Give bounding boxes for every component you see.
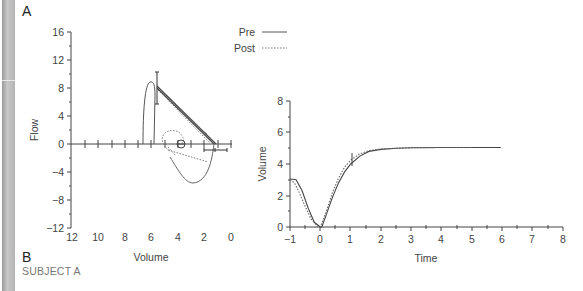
time-y-label: Volume <box>256 146 268 181</box>
time-x-tick-labels: −1 0 1 2 3 4 5 6 7 8 <box>284 233 566 245</box>
svg-text:2: 2 <box>277 190 283 202</box>
svg-text:8: 8 <box>277 95 283 107</box>
svg-text:7: 7 <box>529 233 535 245</box>
legend-pre-label: Pre <box>239 26 256 38</box>
horizontal-error-bar <box>204 148 227 152</box>
svg-text:0: 0 <box>58 138 64 150</box>
flow-y-ticks <box>67 32 71 228</box>
time-x-ticks <box>290 225 563 231</box>
figure-canvas: 16 12 8 4 0 −4 −8 −12 Flow 12 10 8 6 4 2 <box>0 0 583 291</box>
svg-text:−4: −4 <box>52 166 64 178</box>
flow-x-tick-labels: 12 10 8 6 4 2 0 <box>66 231 234 243</box>
pre-volume-time-curve <box>290 148 501 228</box>
svg-text:1: 1 <box>347 233 353 245</box>
svg-text:6: 6 <box>277 126 283 138</box>
pre-expiratory-peak <box>143 82 155 144</box>
svg-text:8: 8 <box>122 231 128 243</box>
volume-time-chart: 8 6 4 2 0 Volume −1 0 1 2 3 4 5 <box>256 95 566 264</box>
svg-text:2: 2 <box>378 233 384 245</box>
flow-x-label: Volume <box>133 251 168 263</box>
pre-descending-line-2 <box>157 86 216 144</box>
flow-y-tick-labels: 16 12 8 4 0 −4 −8 −12 <box>46 26 64 234</box>
svg-text:0: 0 <box>277 221 283 233</box>
post-inspiratory-line <box>168 150 208 162</box>
svg-text:12: 12 <box>52 54 64 66</box>
svg-text:5: 5 <box>469 233 475 245</box>
svg-text:−12: −12 <box>46 222 64 234</box>
flow-volume-chart: 16 12 8 4 0 −4 −8 −12 Flow 12 10 8 6 4 2 <box>28 26 234 263</box>
post-volume-time-curve <box>290 148 472 228</box>
time-x-label: Time <box>415 252 438 264</box>
svg-text:−1: −1 <box>284 233 296 245</box>
post-connector <box>168 147 176 156</box>
pre-descending-line <box>157 88 214 144</box>
svg-text:4: 4 <box>438 233 444 245</box>
time-y-tick-labels: 8 6 4 2 0 <box>277 95 283 233</box>
svg-text:12: 12 <box>66 231 78 243</box>
svg-text:10: 10 <box>92 231 104 243</box>
svg-text:0: 0 <box>228 231 234 243</box>
svg-text:4: 4 <box>277 158 283 170</box>
svg-text:8: 8 <box>560 233 566 245</box>
svg-text:6: 6 <box>499 233 505 245</box>
legend: Pre Post <box>234 26 287 54</box>
svg-text:16: 16 <box>52 26 64 38</box>
svg-text:4: 4 <box>58 110 64 122</box>
legend-post-label: Post <box>234 42 255 54</box>
post-descending-line <box>158 90 210 143</box>
svg-text:3: 3 <box>408 233 414 245</box>
svg-text:6: 6 <box>148 231 154 243</box>
svg-text:4: 4 <box>175 231 181 243</box>
svg-text:−8: −8 <box>52 194 64 206</box>
svg-text:2: 2 <box>201 231 207 243</box>
flow-y-label: Flow <box>28 118 40 141</box>
svg-text:0: 0 <box>317 233 323 245</box>
svg-text:8: 8 <box>58 82 64 94</box>
time-y-ticks <box>286 101 290 227</box>
